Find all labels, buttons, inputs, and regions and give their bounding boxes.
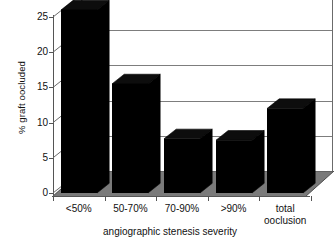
- x-axis-title: angiographic stenesis severity: [40, 226, 300, 237]
- x-tick-mark: [53, 196, 54, 201]
- bar-chart: % graft oocluded 0510152025 <50%50-70%70…: [0, 0, 336, 243]
- y-tick-mark: [49, 193, 54, 194]
- x-tick-mark: [105, 196, 106, 201]
- x-tick-mark: [208, 196, 209, 201]
- x-tick-mark: [311, 196, 312, 201]
- x-tick-mark: [259, 196, 260, 201]
- y-tick-mark: [49, 158, 54, 159]
- y-tick-mark: [49, 52, 54, 53]
- y-tick-mark: [49, 17, 54, 18]
- x-axis-line: [52, 196, 310, 197]
- y-tick-mark: [49, 123, 54, 124]
- x-tick-mark: [156, 196, 157, 201]
- y-tick-mark: [49, 87, 54, 88]
- x-category-label-4: total ooclusion: [249, 203, 321, 227]
